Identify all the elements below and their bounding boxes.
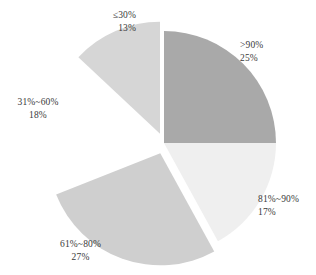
slice-label-le30-value: 13% [88,22,136,35]
pie-chart-canvas [0,0,316,275]
pie-slice-30 [78,22,160,134]
pie-chart-figure: ≤30% 13% >90% 25% 81%~90% 17% 61%~80% 27… [0,0,316,275]
slice-label-gt90: >90% 25% [240,39,263,64]
slice-label-31-60-value: 18% [6,109,70,122]
slice-label-gt90-value: 25% [240,52,263,65]
slice-label-gt90-name: >90% [240,39,263,52]
slice-label-le30-name: ≤30% [88,9,136,22]
slice-label-31-60-name: 31%~60% [6,96,70,109]
slice-label-81-90-value: 17% [258,206,299,219]
slice-label-81-90: 81%~90% 17% [258,193,299,218]
slice-label-81-90-name: 81%~90% [258,193,299,206]
slice-label-61-80: 61%~80% 27% [60,238,101,263]
slice-label-61-80-name: 61%~80% [60,238,101,251]
slice-label-31-60: 31%~60% 18% [6,96,70,121]
slice-label-le30: ≤30% 13% [88,9,136,34]
slice-label-61-80-value: 27% [60,251,101,264]
